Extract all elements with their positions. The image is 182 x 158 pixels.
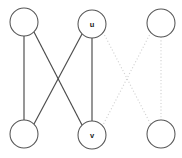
node-top-left-circle[interactable] [10, 8, 38, 36]
node-top-left[interactable] [10, 8, 38, 36]
node-bottom-left[interactable] [10, 120, 38, 148]
edge-topright-v [103, 32, 151, 125]
node-top-right[interactable] [147, 9, 175, 37]
node-u-label: u [90, 20, 95, 29]
node-bottom-right[interactable] [147, 120, 175, 148]
node-u[interactable]: u [78, 10, 106, 38]
node-v[interactable]: v [78, 121, 106, 149]
edge-u-bottomright [103, 32, 151, 125]
diagram-canvas: uv [0, 0, 182, 158]
node-bottom-right-circle[interactable] [147, 120, 175, 148]
graph-svg: uv [0, 0, 182, 158]
node-top-right-circle[interactable] [147, 9, 175, 37]
edges-layer [24, 32, 161, 125]
node-bottom-left-circle[interactable] [10, 120, 38, 148]
